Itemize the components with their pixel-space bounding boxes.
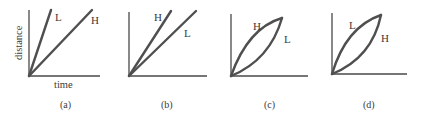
caption-c: (c) <box>264 99 275 111</box>
curve-d-L <box>332 15 381 74</box>
label-b-L: L <box>184 27 191 39</box>
panel-a: L H distance time (a) <box>13 10 100 111</box>
curve-d-H <box>332 15 381 74</box>
label-a-L: L <box>55 11 62 23</box>
y-axis-label: distance <box>13 25 24 60</box>
label-b-H: H <box>154 11 162 23</box>
label-c-L: L <box>284 33 291 45</box>
label-c-H: H <box>253 20 261 32</box>
caption-b: (b) <box>161 99 173 111</box>
x-axis-label: time <box>54 79 73 90</box>
figure: L H distance time (a) H L (b) H L (c) L … <box>0 0 424 117</box>
label-a-H: H <box>91 14 99 26</box>
panel-d: L H (d) <box>332 13 407 111</box>
axes-b <box>129 12 207 76</box>
label-d-L: L <box>349 19 356 31</box>
line-b-H <box>129 11 171 76</box>
panel-b: H L (b) <box>129 11 207 111</box>
caption-d: (d) <box>363 99 375 111</box>
panel-c: H L (c) <box>231 14 308 111</box>
caption-a: (a) <box>60 99 71 111</box>
line-b-L <box>129 11 196 76</box>
label-d-H: H <box>381 32 389 44</box>
